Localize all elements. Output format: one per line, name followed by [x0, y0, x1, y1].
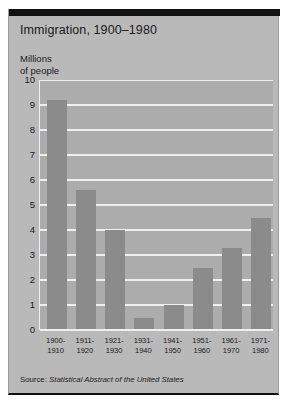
y-axis-caption-line-1: Millions: [20, 53, 59, 65]
bar-1911-1920: [76, 190, 96, 330]
axis-baseline: [40, 329, 273, 331]
source-publication-title: Statistical Abstract of the United State…: [49, 375, 184, 384]
bar-series: [40, 81, 273, 330]
bar-1951-1960: [193, 268, 213, 331]
y-axis-tick-3: 3: [13, 249, 35, 260]
card-top-rule: [9, 9, 280, 16]
y-axis-tick-1: 1: [13, 299, 35, 310]
bar-1900-1910: [47, 100, 67, 330]
x-axis-tick-line: 1980: [243, 346, 277, 356]
plot-area: [39, 80, 273, 330]
chart-card: Immigration, 1900–1980 Millions of peopl…: [8, 9, 279, 395]
chart-title: Immigration, 1900–1980: [20, 23, 157, 37]
y-axis-tick-0: 0: [13, 324, 35, 335]
bar-1971-1980: [251, 218, 271, 331]
y-axis-tick-8: 8: [13, 124, 35, 135]
bar-1921-1930: [105, 230, 125, 330]
y-axis-tick-4: 4: [13, 224, 35, 235]
source-note: Source: Statistical Abstract of the Unit…: [20, 375, 184, 384]
source-prefix: Source:: [20, 375, 49, 384]
y-axis-tick-7: 7: [13, 149, 35, 160]
y-axis-tick-2: 2: [13, 274, 35, 285]
y-axis-tick-10: 10: [13, 74, 35, 85]
y-axis-tick-6: 6: [13, 174, 35, 185]
bar-1941-1950: [164, 305, 184, 330]
x-axis-tick-1971-1980: 1971-1980: [243, 336, 277, 355]
bar-1961-1970: [222, 248, 242, 331]
y-axis-caption: Millions of people: [20, 53, 59, 76]
x-axis-tick-line: 1971-: [243, 336, 277, 346]
y-axis-tick-5: 5: [13, 199, 35, 210]
y-axis-tick-9: 9: [13, 99, 35, 110]
